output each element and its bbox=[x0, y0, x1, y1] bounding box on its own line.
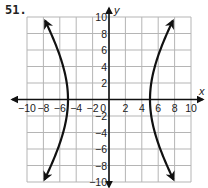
x-axis-label: x bbox=[198, 85, 205, 97]
y-tick-label: 6 bbox=[101, 44, 107, 56]
y-tick-label: 2 bbox=[101, 77, 107, 89]
x-tick-label: 2 bbox=[122, 102, 128, 114]
x-tick-label: −4 bbox=[70, 102, 82, 114]
y-axis-label: y bbox=[113, 4, 121, 16]
x-tick-label: 6 bbox=[155, 102, 161, 114]
y-tick-label: −4 bbox=[95, 127, 107, 139]
y-tick-label: −8 bbox=[95, 160, 107, 172]
y-tick-label: −2 bbox=[95, 110, 107, 122]
x-tick-label: −8 bbox=[37, 102, 49, 114]
x-tick-label: −10 bbox=[18, 102, 36, 114]
x-tick-label: 8 bbox=[172, 102, 178, 114]
y-tick-label: −10 bbox=[89, 176, 107, 188]
x-tick-label: 10 bbox=[185, 102, 197, 114]
x-tick-label: −6 bbox=[54, 102, 66, 114]
y-tick-label: −6 bbox=[95, 143, 107, 155]
y-tick-label: 8 bbox=[101, 28, 107, 40]
x-tick-label: 4 bbox=[139, 102, 145, 114]
y-tick-label: 4 bbox=[101, 61, 107, 73]
y-tick-label: 10 bbox=[95, 11, 107, 23]
hyperbola-chart: −10−8−6−4−20246810108642−2−4−6−8−10 x y bbox=[0, 0, 208, 188]
